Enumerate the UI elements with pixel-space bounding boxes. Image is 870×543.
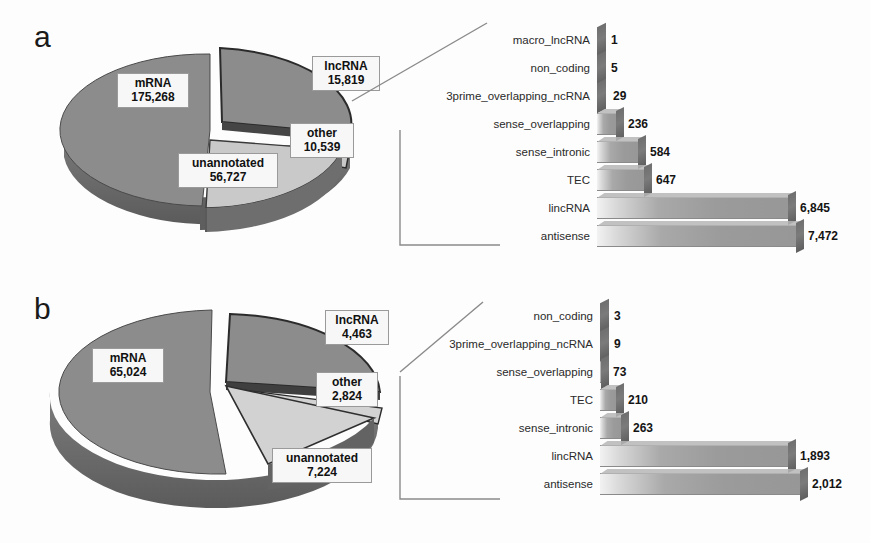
panel-a: a <box>0 0 870 271</box>
bar-label: 3prime_overlapping_ncRNA <box>449 338 593 351</box>
bar-row: antisense 2,012 <box>600 470 808 498</box>
bar-top <box>597 221 804 226</box>
bar-label: non_coding <box>534 310 593 323</box>
bar-shape <box>600 389 624 411</box>
bar-face <box>597 225 797 247</box>
bar-row: sense_intronic 584 <box>597 138 646 166</box>
bar-side <box>616 107 624 141</box>
bar-label: 3prime_overlapping_ncRNA <box>446 90 590 103</box>
bar-row: 3prime_overlapping_ncRNA 29 <box>597 82 601 110</box>
bar-row: lincRNA 6,845 <box>597 194 796 222</box>
bar-label: lincRNA <box>548 202 590 215</box>
bar-side <box>616 383 624 417</box>
bar-shape <box>597 197 796 219</box>
bar-label: antisense <box>541 230 590 243</box>
bar-side <box>800 467 808 501</box>
bar-label: TEC <box>567 174 590 187</box>
bar-shape <box>600 361 609 383</box>
bar-row: sense_overlapping 236 <box>597 110 624 138</box>
bar-label: non_coding <box>531 62 590 75</box>
bar-top <box>600 441 796 446</box>
bar-label: sense_intronic <box>519 422 593 435</box>
bar-row: 3prime_overlapping_ncRNA 9 <box>600 330 602 358</box>
bar-value: 236 <box>628 118 648 131</box>
bar-shape <box>600 473 808 495</box>
bar-shape <box>597 225 804 247</box>
bar-label: macro_lncRNA <box>513 34 590 47</box>
bar-side <box>601 355 609 389</box>
connector-bracket <box>400 376 500 499</box>
bar-side <box>644 163 652 197</box>
bar-face <box>597 197 789 219</box>
bar-chart-a: macro_lncRNA 1 non_coding 5 3prime_o <box>597 26 827 256</box>
bar-label: sense_overlapping <box>496 366 593 379</box>
bar-value: 9 <box>614 338 621 351</box>
bar-value: 263 <box>633 422 653 435</box>
panel-b: b <box>0 272 870 543</box>
bar-face <box>600 417 622 439</box>
bar-shape <box>597 141 646 163</box>
bar-row: sense_intronic 263 <box>600 414 629 442</box>
bar-face <box>600 389 617 411</box>
bar-shape <box>597 29 599 51</box>
bar-top <box>600 469 808 474</box>
bar-face <box>597 141 639 163</box>
bar-side <box>638 135 646 169</box>
bar-chart-b: non_coding 3 3prime_overlapping_ncRNA 9 <box>600 302 820 507</box>
connector-bracket <box>400 130 500 245</box>
bar-side <box>796 219 804 253</box>
bar-label: sense_intronic <box>516 146 590 159</box>
bar-face <box>597 169 645 191</box>
bar-value: 29 <box>613 90 626 103</box>
bar-shape <box>597 85 601 107</box>
bar-face <box>597 113 617 135</box>
bar-value: 1,893 <box>800 450 830 463</box>
bar-row: sense_overlapping 73 <box>600 358 609 386</box>
bar-row: non_coding 5 <box>597 54 599 82</box>
bar-row: TEC 647 <box>597 166 652 194</box>
bar-shape <box>600 333 602 355</box>
bar-label: sense_overlapping <box>493 118 590 131</box>
bar-shape <box>597 57 599 79</box>
bar-row: macro_lncRNA 1 <box>597 26 599 54</box>
bar-value: 6,845 <box>800 202 830 215</box>
bar-value: 1 <box>611 34 618 47</box>
bar-side <box>621 411 629 445</box>
bar-value: 5 <box>611 62 618 75</box>
bar-value: 647 <box>656 174 676 187</box>
bar-shape <box>597 169 652 191</box>
bar-value: 73 <box>613 366 626 379</box>
bar-shape <box>600 305 602 327</box>
bar-face <box>600 445 789 467</box>
bar-row: lincRNA 1,893 <box>600 442 796 470</box>
bar-label: antisense <box>544 478 593 491</box>
bar-value: 210 <box>628 394 648 407</box>
figure-root: a <box>0 0 870 543</box>
bar-value: 2,012 <box>812 478 842 491</box>
bar-label: TEC <box>570 394 593 407</box>
bar-shape <box>600 445 796 467</box>
bar-value: 584 <box>650 146 670 159</box>
bar-side <box>788 191 796 225</box>
bar-value: 7,472 <box>808 230 838 243</box>
bar-face <box>600 473 801 495</box>
bar-row: antisense 7,472 <box>597 222 804 250</box>
bar-top <box>597 193 796 198</box>
bar-side <box>788 439 796 473</box>
bar-label: lincRNA <box>551 450 593 463</box>
bar-row: non_coding 3 <box>600 302 602 330</box>
bar-value: 3 <box>614 310 621 323</box>
bar-shape <box>597 113 624 135</box>
bar-shape <box>600 417 629 439</box>
bar-row: TEC 210 <box>600 386 624 414</box>
